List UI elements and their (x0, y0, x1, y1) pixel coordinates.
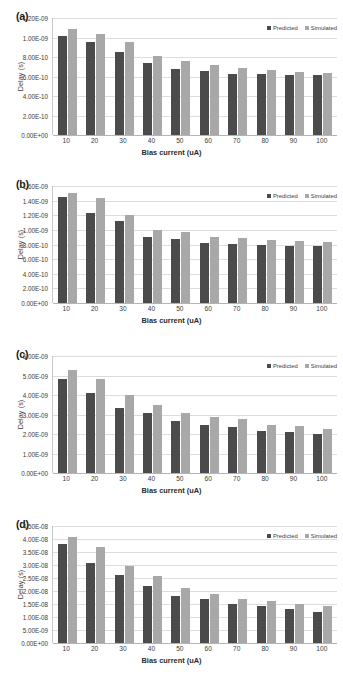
bar-simulated (238, 419, 247, 473)
bar-simulated (68, 193, 77, 303)
y-tick-label: 1.50E-08 (0, 601, 48, 608)
bar-group (53, 186, 81, 303)
x-tick-label: 70 (222, 475, 250, 482)
x-tick-label: 80 (251, 645, 279, 652)
x-tick-label: 10 (52, 305, 80, 312)
bar-simulated (68, 370, 77, 473)
bar-simulated (96, 198, 105, 303)
x-tick-label: 80 (251, 475, 279, 482)
bar-predicted (86, 563, 95, 643)
y-tick-label: 2.00E-08 (0, 588, 48, 595)
gridline (53, 643, 337, 644)
bar-predicted (143, 413, 152, 473)
bar-predicted (58, 379, 67, 473)
bar-simulated (267, 425, 276, 473)
bar-group (223, 526, 251, 643)
legend-swatch-icon (267, 364, 271, 368)
y-tick-label: 0.00E+00 (0, 132, 48, 139)
bar-group (195, 356, 223, 473)
y-tick-label: 1.00E-09 (0, 450, 48, 457)
bar-simulated (323, 606, 332, 643)
bar-simulated (210, 237, 219, 303)
chart-legend: PredictedSimulated (267, 363, 337, 369)
bar-predicted (115, 575, 124, 643)
x-tick-label: 70 (222, 137, 250, 144)
figure-sheet: (a)Delay (s)0.00E+002.00E-104.00E-106.00… (0, 0, 343, 691)
x-tick-label: 30 (109, 137, 137, 144)
bar-series-container (53, 186, 337, 303)
x-tick-label: 50 (166, 305, 194, 312)
bar-predicted (200, 425, 209, 473)
bar-predicted (285, 75, 294, 135)
bar-predicted (200, 599, 209, 643)
bar-predicted (86, 213, 95, 303)
x-tick-label: 50 (166, 645, 194, 652)
gridline (53, 135, 337, 136)
bar-predicted (285, 609, 294, 643)
chart-panel-d: (d)Delay (s)0.00E+005.00E-091.00E-081.50… (0, 516, 343, 686)
bar-predicted (143, 63, 152, 135)
bar-group (223, 186, 251, 303)
bar-predicted (171, 596, 180, 643)
bar-group (53, 356, 81, 473)
bar-group (167, 186, 195, 303)
x-tick-label: 100 (308, 645, 336, 652)
y-tick-label: 2.00E-10 (0, 112, 48, 119)
bar-predicted (313, 246, 322, 303)
bar-simulated (295, 426, 304, 473)
y-tick-label: 2.00E-09 (0, 431, 48, 438)
bar-predicted (143, 586, 152, 643)
bar-group (195, 18, 223, 135)
x-tick-label: 60 (194, 137, 222, 144)
y-tick-label: 1.00E-08 (0, 614, 48, 621)
bar-group (167, 356, 195, 473)
bar-group (280, 356, 308, 473)
bar-group (223, 356, 251, 473)
y-tick-label: 4.00E-10 (0, 270, 48, 277)
x-axis-label: Bias current (uA) (0, 656, 343, 665)
legend-label: Simulated (311, 25, 337, 31)
y-tick-label: 6.00E-10 (0, 256, 48, 263)
y-tick-label: 6.00E-10 (0, 73, 48, 80)
bar-group (252, 356, 280, 473)
x-tick-label: 30 (109, 475, 137, 482)
bar-predicted (285, 246, 294, 303)
bar-simulated (125, 42, 134, 135)
y-tick-label: 4.00E-09 (0, 392, 48, 399)
bar-simulated (238, 68, 247, 135)
x-tick-label: 70 (222, 305, 250, 312)
x-tick-label: 10 (52, 137, 80, 144)
legend-item-predicted: Predicted (267, 363, 298, 369)
x-tick-label: 50 (166, 475, 194, 482)
bar-simulated (210, 594, 219, 643)
bar-predicted (313, 434, 322, 473)
bar-simulated (267, 601, 276, 643)
x-tick-label: 40 (137, 645, 165, 652)
bar-predicted (143, 237, 152, 303)
bar-predicted (228, 604, 237, 643)
y-tick-label: 4.00E-08 (0, 536, 48, 543)
legend-item-simulated: Simulated (305, 363, 337, 369)
bar-group (252, 186, 280, 303)
bar-simulated (153, 405, 162, 473)
x-tick-label: 10 (52, 475, 80, 482)
chart-legend: PredictedSimulated (267, 193, 337, 199)
bar-simulated (125, 395, 134, 473)
bar-group (252, 526, 280, 643)
bar-predicted (58, 197, 67, 303)
bar-simulated (125, 566, 134, 643)
bar-predicted (58, 544, 67, 643)
x-tick-label: 60 (194, 645, 222, 652)
bar-group (81, 526, 109, 643)
legend-item-simulated: Simulated (305, 193, 337, 199)
legend-label: Simulated (311, 193, 337, 199)
y-tick-label: 1.00E-09 (0, 34, 48, 41)
x-tick-label: 80 (251, 305, 279, 312)
plot-area (52, 356, 337, 473)
bar-simulated (153, 576, 162, 643)
bar-group (309, 356, 337, 473)
bar-group (138, 186, 166, 303)
y-tick-label: 0.00E+00 (0, 300, 48, 307)
bar-group (223, 18, 251, 135)
legend-item-simulated: Simulated (305, 25, 337, 31)
